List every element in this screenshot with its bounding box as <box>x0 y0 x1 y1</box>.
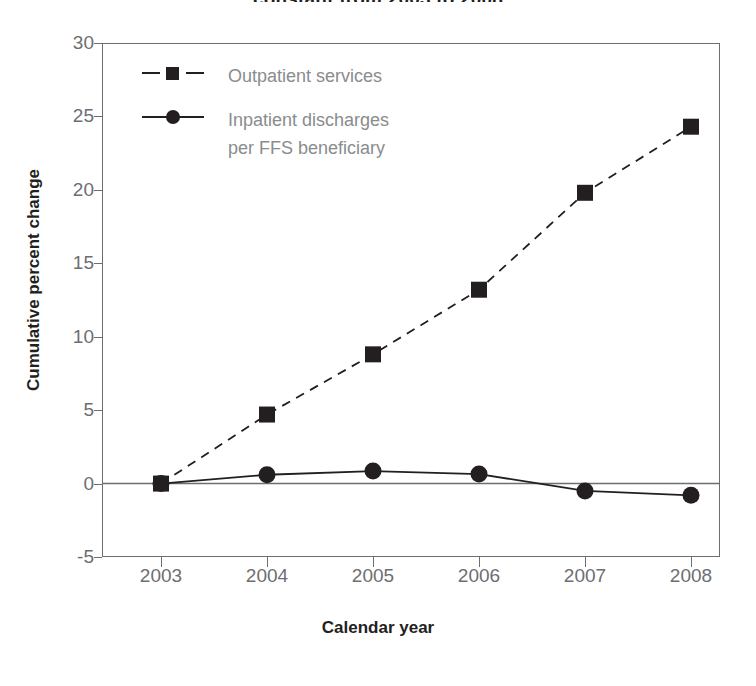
series-plot <box>0 0 756 686</box>
series-line-0 <box>161 127 691 484</box>
legend-swatch-outpatient-dashed-square <box>140 62 218 84</box>
legend-label-inpatient-line2: per FFS beneficiary <box>228 136 385 160</box>
legend-swatch-inpatient-solid-circle <box>140 106 218 128</box>
legend-label-inpatient-line1: Inpatient discharges <box>228 108 389 132</box>
data-point-1-2006 <box>471 466 488 483</box>
data-point-0-2005 <box>365 346 381 362</box>
data-point-1-2004 <box>259 466 276 483</box>
legend-label-outpatient: Outpatient services <box>228 64 382 88</box>
data-point-0-2007 <box>577 185 593 201</box>
data-point-0-2004 <box>259 407 275 423</box>
data-point-1-2005 <box>365 463 382 480</box>
chart-figure: constant from 2003 to 2008 Cumulative pe… <box>0 0 756 686</box>
data-point-1-2008 <box>683 487 700 504</box>
data-point-1-2007 <box>577 482 594 499</box>
data-point-1-2003 <box>153 475 170 492</box>
data-point-0-2006 <box>471 282 487 298</box>
data-point-0-2008 <box>683 119 699 135</box>
